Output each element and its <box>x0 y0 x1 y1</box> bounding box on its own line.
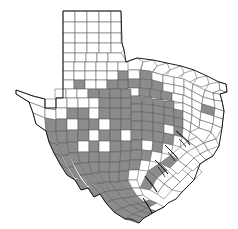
county-shaded <box>89 141 99 152</box>
county-unshaded <box>111 11 121 22</box>
county-unshaded <box>128 70 140 79</box>
county-unshaded <box>99 43 111 53</box>
county-unshaded <box>87 43 99 53</box>
county-shaded <box>121 98 131 108</box>
county-unshaded <box>121 130 131 141</box>
county-unshaded <box>75 22 87 33</box>
county-shaded <box>109 172 119 182</box>
county-unshaded <box>128 170 139 180</box>
county-shaded <box>109 162 120 172</box>
county-shaded <box>119 161 130 171</box>
county-unshaded <box>87 11 99 22</box>
county-shaded <box>45 118 56 132</box>
county-unshaded <box>78 141 89 152</box>
county-unshaded <box>78 98 89 108</box>
county-unshaded <box>99 119 110 130</box>
county-shaded <box>121 89 131 98</box>
county-shaded <box>142 112 153 122</box>
county-shaded <box>99 108 110 119</box>
county-shaded <box>67 130 78 142</box>
county-unshaded <box>63 80 74 89</box>
county-unshaded <box>118 62 128 71</box>
county-unshaded <box>85 71 96 80</box>
county-shaded <box>56 119 67 131</box>
county-shaded <box>131 140 142 150</box>
county-unshaded <box>63 22 75 33</box>
county-unshaded <box>86 53 97 62</box>
county-shaded <box>110 130 121 141</box>
county-unshaded <box>77 89 88 98</box>
county-shaded <box>142 130 153 141</box>
county-shaded <box>107 80 118 89</box>
county-shaded <box>89 152 99 162</box>
county-unshaded <box>99 22 111 33</box>
county-unshaded <box>63 33 75 43</box>
county-shaded <box>120 151 131 161</box>
county-unshaded <box>85 80 96 89</box>
county-shaded <box>131 121 142 130</box>
county-shaded <box>121 141 131 151</box>
county-shaded <box>121 108 131 119</box>
county-unshaded <box>96 71 107 80</box>
county-shaded <box>99 98 110 108</box>
county-shaded <box>78 130 89 141</box>
county-shaded <box>142 121 153 131</box>
county-unshaded <box>63 43 75 53</box>
map-canvas <box>0 0 238 229</box>
county-unshaded <box>111 22 121 33</box>
county-unshaded <box>99 11 111 22</box>
county-shaded <box>110 89 121 98</box>
county-unshaded <box>85 62 96 71</box>
county-unshaded <box>75 43 87 53</box>
county-unshaded <box>99 33 111 43</box>
county-unshaded <box>55 89 66 98</box>
county-unshaded <box>107 71 118 80</box>
county-unshaded <box>75 11 87 22</box>
county-shaded <box>78 119 89 130</box>
county-unshaded <box>139 160 150 171</box>
county-shaded <box>110 119 121 130</box>
county-unshaded <box>107 62 118 71</box>
county-shaded <box>78 152 89 163</box>
county-shaded <box>67 142 78 153</box>
county-unshaded <box>63 53 75 62</box>
county-unshaded <box>89 108 99 119</box>
county-shaded <box>110 141 121 152</box>
county-unshaded <box>74 71 85 80</box>
county-unshaded <box>162 143 173 155</box>
county-unshaded <box>87 33 99 43</box>
county-unshaded <box>66 89 77 98</box>
county-unshaded <box>63 11 75 22</box>
texas-county-choropleth-map <box>0 0 238 229</box>
county-unshaded <box>96 80 107 89</box>
county-unshaded <box>97 53 108 62</box>
county-unshaded <box>75 53 86 62</box>
county-shaded <box>142 97 153 105</box>
county-shaded <box>118 80 128 89</box>
county-shaded <box>67 108 78 119</box>
county-shaded <box>99 162 110 172</box>
county-shaded <box>140 70 152 80</box>
county-unshaded <box>56 98 67 108</box>
county-shaded <box>139 88 150 97</box>
county-unshaded <box>87 22 99 33</box>
county-unshaded <box>63 71 74 80</box>
county-shaded <box>130 150 142 160</box>
county-unshaded <box>56 108 67 119</box>
county-shaded <box>140 79 152 89</box>
county-shaded <box>78 108 89 119</box>
county-shaded <box>131 130 142 140</box>
county-shaded <box>56 131 67 143</box>
county-shaded <box>128 79 140 88</box>
county-unshaded <box>111 33 121 43</box>
county-shaded <box>74 80 85 89</box>
county-shaded <box>131 112 142 121</box>
county-shaded <box>99 152 110 162</box>
county-shaded <box>121 119 131 130</box>
county-unshaded <box>67 98 78 108</box>
county-unshaded <box>75 33 87 43</box>
county-shaded <box>110 98 121 108</box>
county-shaded <box>119 171 129 181</box>
county-unshaded <box>89 130 99 141</box>
county-shaded <box>131 104 142 112</box>
